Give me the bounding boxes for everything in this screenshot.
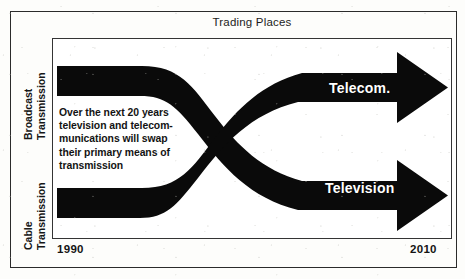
arrow-label-television: Television [325, 180, 394, 196]
caption-line-5: transmission [59, 160, 123, 171]
page-title: Trading Places [52, 16, 452, 28]
y-axis-label-cable-line2: Transmission [35, 182, 48, 250]
x-axis-tick-end: 2010 [410, 243, 437, 255]
x-axis-tick-start: 1990 [57, 243, 84, 255]
y-axis-label-cable-line1: Cable [22, 182, 35, 250]
y-axis-label-broadcast: Broadcast Transmission [22, 72, 47, 140]
y-axis-label-broadcast-line1: Broadcast [22, 72, 35, 140]
caption-text: Over the next 20 years television and te… [59, 106, 181, 172]
caption-line-4: their primary means of [59, 147, 170, 158]
y-axis-label-broadcast-line2: Transmission [35, 72, 48, 140]
y-axis-label-cable: Cable Transmission [22, 182, 47, 250]
arrow-label-telecom: Telecom. [329, 80, 390, 96]
caption-line-3: munications will swap [59, 133, 168, 144]
trading-places-figure: Trading Places Broadcast Transmission Ca… [0, 0, 465, 279]
caption-line-2: television and telecom- [59, 120, 173, 131]
caption-line-1: Over the next 20 years [59, 107, 169, 118]
